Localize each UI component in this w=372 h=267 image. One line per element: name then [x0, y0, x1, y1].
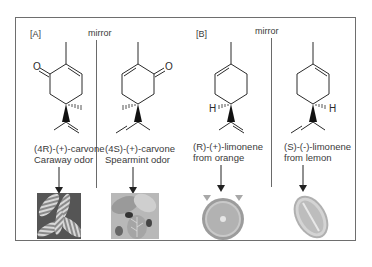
hydrogen-label: H [209, 103, 216, 114]
arrow-down-icon [298, 165, 308, 193]
orange-half-photo [199, 193, 247, 241]
arrow-down-icon [54, 167, 64, 195]
mirror-label-b: mirror [255, 26, 279, 36]
caption-4r-carvone: (4R)-(+)-carvone Caraway odor [34, 143, 104, 165]
mirror-label-a: mirror [88, 28, 112, 38]
lemon-half-photo [285, 193, 337, 241]
molecule-name: (4R)-(+)-carvone [34, 143, 104, 154]
caption-4s-carvone: (4S)-(+)-carvone Spearmint odor [105, 143, 175, 165]
molecule-description: from orange [193, 152, 263, 163]
oxygen-label: O [33, 61, 41, 72]
molecule-description: Spearmint odor [105, 154, 175, 165]
mirror-line-b [271, 38, 272, 187]
molecule-description: from lemon [284, 152, 351, 163]
molecule-name: (R)-(+)-limonene [193, 141, 263, 152]
hydrogen-label: H [329, 103, 336, 114]
molecule-4r-carvone: O [18, 38, 96, 134]
molecule-4s-carvone: O [100, 38, 178, 134]
molecule-name: (4S)-(+)-carvone [105, 143, 175, 154]
molecule-s-limonene: H [276, 38, 356, 134]
caption-r-limonene: (R)-(+)-limonene from orange [193, 141, 263, 163]
caraway-seeds-photo [37, 193, 81, 239]
arrow-down-icon [216, 165, 226, 193]
molecule-r-limonene: H [190, 38, 270, 134]
oxygen-label: O [165, 61, 173, 72]
spearmint-leaves-photo [111, 193, 159, 239]
arrow-down-icon [128, 167, 138, 195]
molecule-name: (S)-(-)-limonene [284, 141, 351, 152]
caption-s-limonene: (S)-(-)-limonene from lemon [284, 141, 351, 163]
mirror-line-a [96, 40, 97, 188]
molecule-description: Caraway odor [34, 154, 104, 165]
